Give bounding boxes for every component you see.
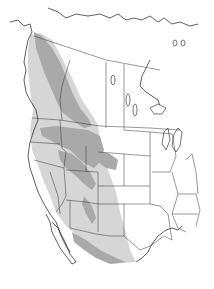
range-map (0, 0, 214, 289)
map-canvas (0, 0, 214, 289)
